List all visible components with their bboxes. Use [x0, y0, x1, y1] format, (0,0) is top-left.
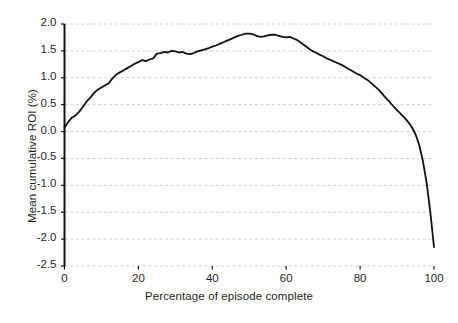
x-tick-label: 80: [340, 272, 380, 284]
gridlines-group: [65, 24, 435, 266]
x-tick-label: 100: [414, 272, 454, 284]
data-line-series-0: [65, 34, 435, 248]
y-tick-label: -2.5: [23, 258, 57, 270]
chart-figure: 2.01.51.00.50.0-0.5-1.0-1.5-2.0-2.5 0204…: [0, 0, 458, 323]
y-tick-label: 2.0: [23, 16, 57, 28]
x-axis-title: Percentage of episode complete: [0, 290, 458, 302]
x-tick-marks-group: [65, 266, 435, 270]
y-tick-label: 1.5: [23, 43, 57, 55]
y-axis-title: Mean cumulative ROI (%): [26, 56, 38, 256]
x-tick-label: 40: [192, 272, 232, 284]
x-tick-label: 20: [118, 272, 158, 284]
x-tick-label: 0: [45, 272, 85, 284]
x-tick-label: 60: [266, 272, 306, 284]
